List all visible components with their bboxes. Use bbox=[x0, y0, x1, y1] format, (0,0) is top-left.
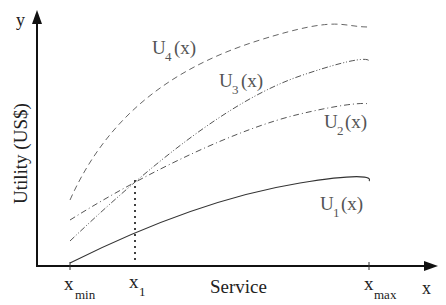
label-u1: U 1 (x) bbox=[320, 193, 363, 220]
curve-u1 bbox=[70, 177, 370, 263]
svg-text:3: 3 bbox=[232, 82, 239, 97]
label-u4: U 4 (x) bbox=[152, 37, 196, 64]
svg-text:U: U bbox=[219, 70, 233, 91]
svg-text:2: 2 bbox=[337, 123, 344, 138]
svg-text:max: max bbox=[374, 287, 397, 302]
utility-diagram: y x Utility (US$) Service x min x 1 x ma… bbox=[0, 0, 446, 305]
x-axis-arrow-icon bbox=[424, 261, 438, 271]
svg-text:1: 1 bbox=[333, 205, 340, 220]
x-axis-symbol: x bbox=[422, 278, 431, 298]
svg-text:x: x bbox=[129, 271, 139, 292]
y-axis-label: Utility (US$) bbox=[10, 103, 32, 204]
svg-text:(x): (x) bbox=[241, 70, 263, 92]
label-u3: U 3 (x) bbox=[219, 70, 263, 97]
svg-text:U: U bbox=[320, 193, 334, 214]
svg-text:U: U bbox=[152, 37, 166, 58]
svg-text:4: 4 bbox=[165, 49, 172, 64]
svg-text:min: min bbox=[75, 287, 96, 302]
svg-text:(x): (x) bbox=[341, 193, 363, 215]
y-axis-symbol: y bbox=[16, 10, 25, 30]
y-axis-arrow-icon bbox=[32, 10, 42, 24]
x-axis-label: Service bbox=[210, 276, 267, 297]
svg-text:x: x bbox=[64, 273, 74, 294]
svg-text:(x): (x) bbox=[345, 111, 367, 133]
svg-text:x: x bbox=[364, 273, 374, 294]
svg-text:U: U bbox=[324, 111, 338, 132]
tick-label-x1: x 1 bbox=[129, 271, 146, 299]
svg-text:1: 1 bbox=[139, 284, 146, 299]
svg-text:(x): (x) bbox=[174, 37, 196, 59]
label-u2: U 2 (x) bbox=[324, 111, 367, 138]
tick-label-xmin: x min bbox=[64, 273, 96, 302]
tick-label-xmax: x max bbox=[364, 273, 397, 302]
